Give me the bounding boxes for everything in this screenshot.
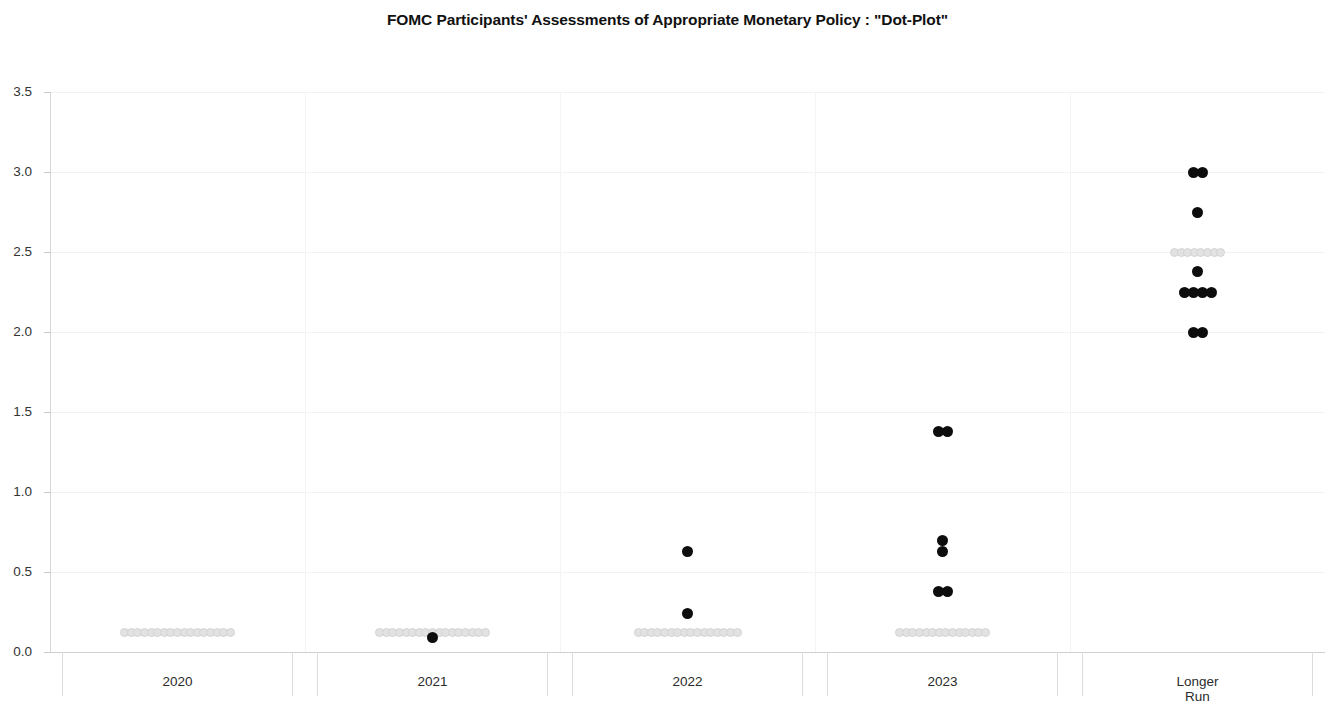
y-axis-tick [44,172,51,173]
y-axis-tick [44,252,51,253]
x-axis-category-label: 2023 [828,674,1057,689]
y-axis-tick [44,332,51,333]
data-point [1216,248,1225,257]
x-axis-category-label: 2021 [318,674,547,689]
data-point [1206,287,1217,298]
y-axis-tick-label: 0.5 [0,564,32,579]
data-point [481,628,490,637]
y-axis-tick-label: 1.5 [0,404,32,419]
y-axis-tick-label: 0.0 [0,644,32,659]
x-axis-category-label: 2020 [63,674,292,689]
category-separator [1070,92,1071,652]
data-point [733,628,742,637]
data-point [1197,167,1208,178]
gridline [50,572,1325,573]
y-axis-tick-label: 2.0 [0,324,32,339]
x-axis-category-2021: 2021 [317,652,548,696]
plot-frame [50,92,1325,652]
data-point [1197,327,1208,338]
data-point [226,628,235,637]
data-point [937,535,948,546]
x-axis-category-longer-run: Longer Run [1082,652,1313,696]
gridline [50,412,1325,413]
y-axis-tick-label: 3.0 [0,164,32,179]
category-separator [560,92,561,652]
gridline [50,172,1325,173]
x-axis-category-label: 2022 [573,674,802,689]
gridline [50,492,1325,493]
x-axis-category-2023: 2023 [827,652,1058,696]
y-axis-tick-label: 3.5 [0,84,32,99]
x-axis-category-2022: 2022 [572,652,803,696]
y-axis-tick [44,412,51,413]
y-axis-tick [44,92,51,93]
y-axis-tick-label: 1.0 [0,484,32,499]
x-axis-category-2020: 2020 [62,652,293,696]
gridline [50,332,1325,333]
chart-title: FOMC Participants' Assessments of Approp… [0,11,1335,29]
data-point [937,546,948,557]
dot-plot-chart: FOMC Participants' Assessments of Approp… [0,0,1335,708]
data-point [682,546,693,557]
plot-area: 0.00.51.01.52.02.53.03.5 [50,92,1325,652]
y-axis-tick-label: 2.5 [0,244,32,259]
category-separator [815,92,816,652]
data-point [942,426,953,437]
data-point [981,628,990,637]
y-axis-tick [44,572,51,573]
data-point [1192,266,1203,277]
y-axis-tick [44,492,51,493]
category-separator [305,92,306,652]
data-point [942,586,953,597]
x-axis: 2020202120222023Longer Run [50,652,1325,708]
gridline [50,92,1325,93]
x-axis-category-label: Longer Run [1083,674,1312,704]
data-point [1192,207,1203,218]
gridline [50,252,1325,253]
